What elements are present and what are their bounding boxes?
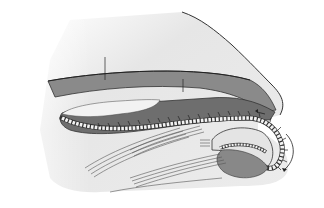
radula-anatomy-illustration: I've caught a problem in my own output: … xyxy=(0,0,324,208)
